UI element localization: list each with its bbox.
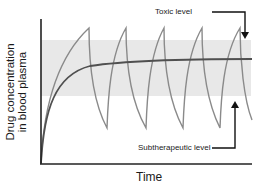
x-axis-label: Time	[136, 170, 162, 184]
y-axis-label: Drug concentration in blood plasma	[4, 37, 34, 147]
y-axis-label-line2: in blood plasma	[16, 37, 28, 147]
chart-canvas	[0, 0, 265, 190]
toxic-level-label: Toxic level	[155, 7, 192, 16]
subtherapeutic-level-arrow	[212, 101, 239, 148]
subtherapeutic-level-label: Subtherapeutic level	[138, 143, 211, 152]
y-axis-label-line1: Drug concentration	[4, 37, 16, 147]
toxic-level-arrow	[212, 12, 249, 39]
